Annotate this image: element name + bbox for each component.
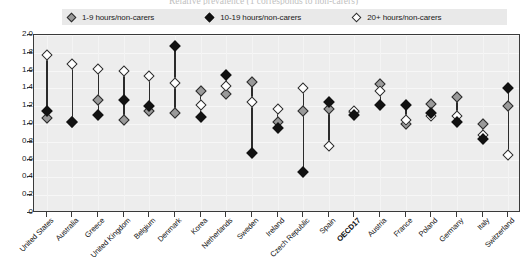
grid-line-vertical	[149, 35, 150, 211]
legend-label: 20+ hours/non-carers	[367, 13, 441, 22]
x-axis-label-poland: Poland	[417, 216, 440, 239]
data-point-black-diamond-icon[interactable]	[246, 148, 257, 159]
x-axis-tick	[46, 212, 47, 217]
x-axis-label-oecd17: OECD17	[335, 216, 362, 243]
range-stem	[303, 88, 304, 172]
data-point-black-diamond-icon[interactable]	[297, 166, 308, 177]
x-axis-tick	[123, 212, 124, 217]
x-axis-label-italy: Italy	[475, 216, 491, 232]
x-axis-label-spain: Spain	[317, 216, 337, 236]
grid-line-vertical	[380, 35, 381, 211]
range-stem	[72, 64, 73, 122]
range-stem	[251, 82, 252, 153]
y-axis-tick-label: 0.8	[5, 136, 33, 145]
x-axis-label-austria: Austria	[366, 216, 389, 239]
data-point-gray-diamond-icon[interactable]	[451, 92, 462, 103]
y-axis-tick-label: 0.2	[5, 189, 33, 198]
x-axis-tick	[405, 212, 406, 217]
gray-diamond-icon	[67, 12, 77, 22]
data-point-black-diamond-icon[interactable]	[92, 109, 103, 120]
legend-item-1-9-hours: 1-9 hours/non-carers	[68, 9, 154, 25]
data-point-white-diamond-icon[interactable]	[92, 63, 103, 74]
data-point-black-diamond-icon[interactable]	[67, 117, 78, 128]
grid-line-vertical	[201, 35, 202, 211]
data-point-white-diamond-icon[interactable]	[374, 85, 385, 96]
chart-root: Relative prevalence (1 corresponds to no…	[0, 0, 527, 274]
range-stem	[508, 88, 509, 156]
x-axis-label-germany: Germany	[437, 216, 465, 244]
y-axis-tick-label: 0.4	[5, 171, 33, 180]
y-axis-tick-label: 2.0	[5, 29, 33, 38]
x-axis-label-sweden: Sweden	[235, 216, 260, 241]
x-axis-tick	[482, 212, 483, 217]
grid-line	[34, 88, 519, 89]
x-axis-label-australia: Australia	[54, 216, 81, 243]
y-axis-tick-label: 1.2	[5, 100, 33, 109]
grid-line-vertical	[354, 35, 355, 211]
y-axis-tick-label: 0.6	[5, 154, 33, 163]
chart-title: Relative prevalence (1 corresponds to no…	[0, 0, 527, 5]
data-point-white-diamond-icon[interactable]	[41, 49, 52, 60]
grid-line	[34, 53, 519, 54]
data-point-gray-diamond-icon[interactable]	[195, 85, 206, 96]
x-axis-label-belgium: Belgium	[132, 216, 157, 241]
data-point-white-diamond-icon[interactable]	[118, 65, 129, 76]
data-point-white-diamond-icon[interactable]	[144, 70, 155, 81]
x-axis-label-denmark: Denmark	[156, 216, 184, 244]
data-point-white-diamond-icon[interactable]	[195, 100, 206, 111]
grid-line	[34, 142, 519, 143]
data-point-white-diamond-icon[interactable]	[67, 59, 78, 70]
y-axis: 00.20.40.60.81.01.21.41.61.82.0	[0, 34, 33, 212]
x-axis-tick	[200, 212, 201, 217]
legend-label: 10-19 hours/non-carers	[220, 13, 301, 22]
data-point-white-diamond-icon[interactable]	[221, 80, 232, 91]
white-diamond-icon	[352, 12, 362, 22]
data-point-black-diamond-icon[interactable]	[118, 94, 129, 105]
grid-line	[34, 35, 519, 36]
data-point-gray-diamond-icon[interactable]	[503, 101, 514, 112]
data-point-white-diamond-icon[interactable]	[272, 103, 283, 114]
legend-item-10-19-hours: 10-19 hours/non-carers	[206, 9, 301, 25]
data-point-black-diamond-icon[interactable]	[169, 40, 180, 51]
y-axis-tick-label: 1.4	[5, 82, 33, 91]
data-point-black-diamond-icon[interactable]	[503, 82, 514, 93]
x-axis-tick	[328, 212, 329, 217]
chart-legend: 1-9 hours/non-carers 10-19 hours/non-car…	[62, 9, 507, 25]
data-point-black-diamond-icon[interactable]	[195, 111, 206, 122]
x-axis-label-france: France	[391, 216, 414, 239]
legend-item-20-plus-hours: 20+ hours/non-carers	[353, 9, 441, 25]
data-point-black-diamond-icon[interactable]	[400, 100, 411, 111]
x-axis-tick	[456, 212, 457, 217]
data-point-gray-diamond-icon[interactable]	[92, 94, 103, 105]
data-point-black-diamond-icon[interactable]	[374, 100, 385, 111]
legend-label: 1-9 hours/non-carers	[82, 13, 154, 22]
y-axis-tick-label: 1.0	[5, 118, 33, 127]
y-axis-tick-label: 0	[5, 207, 33, 216]
data-point-gray-diamond-icon[interactable]	[246, 76, 257, 87]
x-axis-label-ireland: Ireland	[264, 216, 286, 238]
plot-area	[33, 34, 520, 212]
grid-line-vertical	[226, 35, 227, 211]
x-axis-label-korea: Korea	[189, 216, 209, 236]
y-axis-tick-label: 1.8	[5, 47, 33, 56]
y-axis-tick-label: 1.6	[5, 65, 33, 74]
data-point-white-diamond-icon[interactable]	[169, 77, 180, 88]
x-axis-tick	[251, 212, 252, 217]
grid-line-vertical	[98, 35, 99, 211]
grid-line	[34, 195, 519, 196]
grid-line-vertical	[431, 35, 432, 211]
grid-line	[34, 177, 519, 178]
black-diamond-icon	[205, 12, 215, 22]
grid-line	[34, 160, 519, 161]
data-point-white-diamond-icon[interactable]	[297, 83, 308, 94]
x-axis-tick	[277, 212, 278, 217]
x-axis-label-united-states: United States	[17, 216, 55, 254]
grid-line	[34, 71, 519, 72]
data-point-gray-diamond-icon[interactable]	[169, 108, 180, 119]
x-axis-label-greece: Greece	[83, 216, 107, 240]
